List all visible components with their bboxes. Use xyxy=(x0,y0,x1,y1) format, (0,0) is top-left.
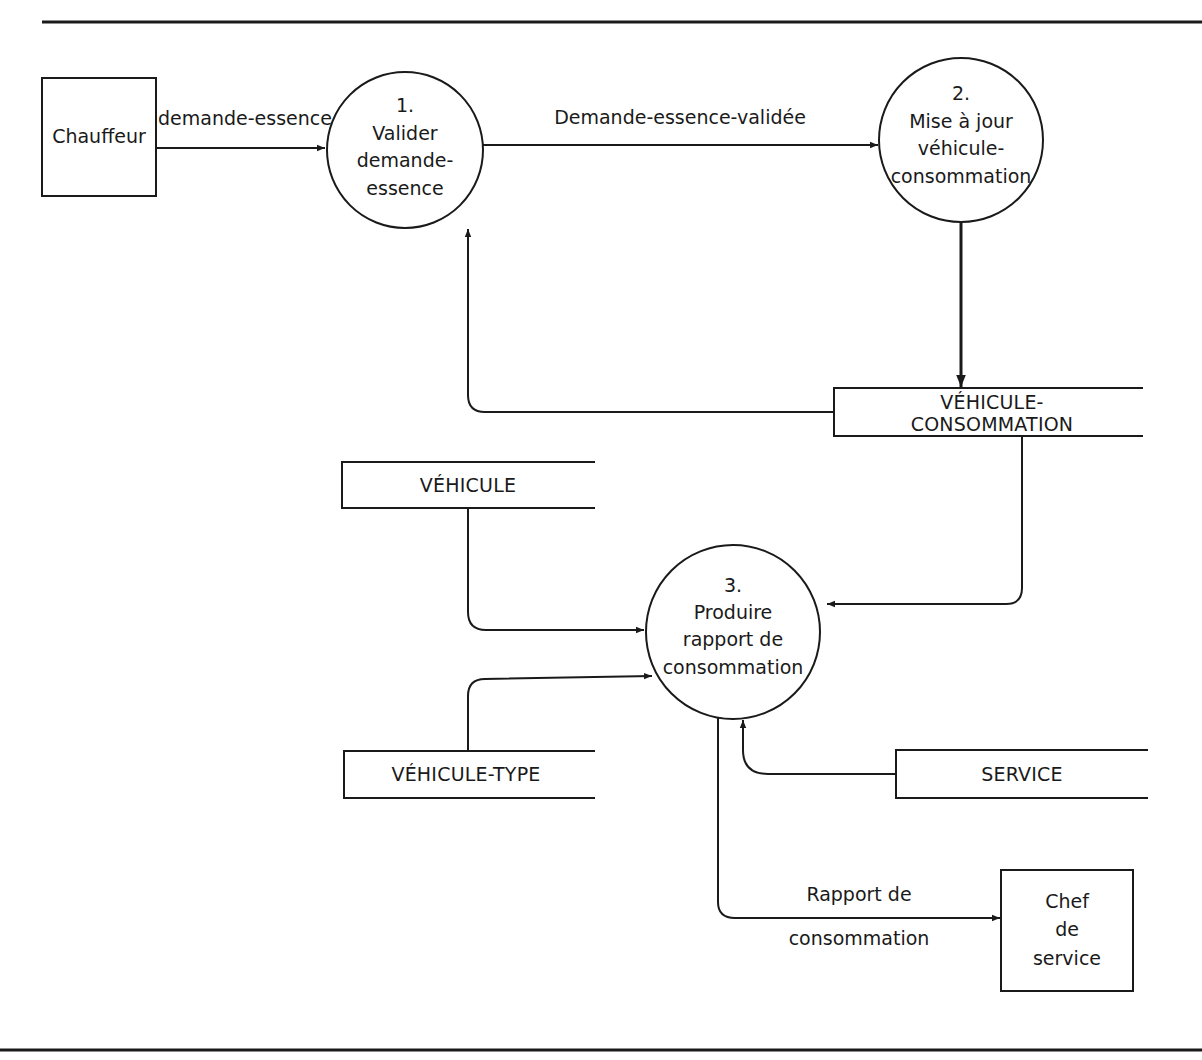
flow-service-to-p3[interactable] xyxy=(743,720,896,774)
store-service[interactable]: SERVICE xyxy=(896,750,1148,798)
store-vehicule-consommation[interactable]: VÉHICULE- CONSOMMATION xyxy=(834,388,1143,436)
process-2-line-3: consommation xyxy=(891,165,1032,187)
flow-rapport-label-line-1: Rapport de xyxy=(806,883,911,905)
process-2-line-2: véhicule- xyxy=(918,137,1005,159)
process-3-produire-rapport[interactable]: 3. Produire rapport de consommation xyxy=(646,545,820,719)
process-1-number: 1. xyxy=(396,94,414,116)
flow-vehicule-consommation-to-p3[interactable] xyxy=(827,436,1022,604)
process-3-number: 3. xyxy=(724,574,742,596)
process-1-line-3: essence xyxy=(366,177,443,199)
process-2-number: 2. xyxy=(952,82,970,104)
entity-chef-line-2: de xyxy=(1055,918,1079,940)
store-vehicule-label: VÉHICULE xyxy=(420,474,516,496)
process-2-line-1: Mise à jour xyxy=(909,110,1013,132)
entity-chef-line-3: service xyxy=(1033,947,1101,969)
entity-chauffeur[interactable]: Chauffeur xyxy=(42,78,156,196)
flow-demande-essence-validee[interactable]: Demande-essence-validée xyxy=(483,106,878,145)
store-service-label: SERVICE xyxy=(981,763,1063,785)
store-vehicule-consommation-line-1: VÉHICULE- xyxy=(940,391,1043,413)
entity-chef-line-1: Chef xyxy=(1045,890,1090,912)
store-vehicule[interactable]: VÉHICULE xyxy=(342,462,595,508)
process-1-line-1: Valider xyxy=(372,122,437,144)
data-flow-diagram: Chauffeur demande-essence 1. Valider dem… xyxy=(0,0,1202,1060)
process-1-valider-demande-essence[interactable]: 1. Valider demande- essence xyxy=(327,72,483,228)
flow-rapport-label-line-2: consommation xyxy=(789,927,930,949)
flow-demande-essence-label: demande-essence xyxy=(158,107,332,129)
entity-chauffeur-label: Chauffeur xyxy=(52,125,146,147)
process-3-line-1: Produire xyxy=(694,601,773,623)
store-vehicule-type[interactable]: VÉHICULE-TYPE xyxy=(344,751,595,798)
flow-vehicule-to-p3[interactable] xyxy=(468,508,644,630)
flow-demande-essence[interactable]: demande-essence xyxy=(157,107,332,148)
process-3-line-2: rapport de xyxy=(683,628,783,650)
store-vehicule-consommation-line-2: CONSOMMATION xyxy=(911,413,1074,435)
process-2-mise-a-jour[interactable]: 2. Mise à jour véhicule- consommation xyxy=(879,58,1043,222)
process-1-line-2: demande- xyxy=(357,149,454,171)
flow-vehicule-consommation-to-p1[interactable] xyxy=(468,229,834,412)
flow-vehicule-type-to-p3[interactable] xyxy=(468,676,652,751)
store-vehicule-type-label: VÉHICULE-TYPE xyxy=(391,763,540,785)
entity-chef-de-service[interactable]: Chef de service xyxy=(1001,870,1133,991)
flow-demande-essence-validee-label: Demande-essence-validée xyxy=(554,106,806,128)
flow-rapport-de-consommation[interactable]: Rapport de consommation xyxy=(718,718,1000,949)
process-3-line-3: consommation xyxy=(663,656,804,678)
